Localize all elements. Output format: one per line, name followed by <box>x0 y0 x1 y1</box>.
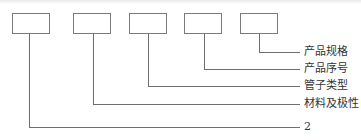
code-box-4 <box>184 13 222 34</box>
code-structure-diagram: 产品规格 产品序号 管子类型 材料及极性 2 <box>0 0 361 140</box>
connector-horizontal-1 <box>29 127 300 128</box>
connector-vertical-1 <box>29 34 30 127</box>
label-tube-type: 管子类型 <box>304 80 348 92</box>
label-product-spec: 产品规格 <box>304 46 348 58</box>
connector-vertical-3 <box>148 34 149 86</box>
connector-vertical-4 <box>204 34 205 69</box>
label-number-2: 2 <box>304 121 311 133</box>
cropped-caption-text <box>0 0 361 4</box>
code-box-1 <box>12 13 50 34</box>
connector-vertical-5 <box>259 34 260 52</box>
connector-horizontal-4 <box>204 69 300 70</box>
connector-horizontal-2 <box>93 104 300 105</box>
connector-horizontal-5 <box>259 52 300 53</box>
label-product-serial: 产品序号 <box>304 63 348 75</box>
code-box-3 <box>129 13 167 34</box>
connector-horizontal-3 <box>148 86 300 87</box>
connector-vertical-2 <box>93 34 94 104</box>
code-box-2 <box>73 13 111 34</box>
code-box-5 <box>240 13 278 34</box>
label-material-polarity: 材料及极性 <box>304 98 359 110</box>
